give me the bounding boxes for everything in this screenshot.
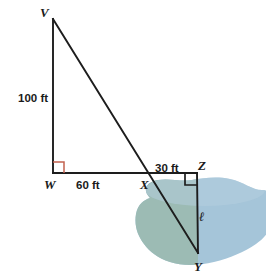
- vertex-label-X: X: [139, 177, 149, 192]
- measurement-label-60-ft: 60 ft: [76, 179, 100, 191]
- measurement-label-100-ft: 100 ft: [18, 92, 48, 104]
- vertex-label-V: V: [40, 5, 50, 20]
- segment-VY: [53, 19, 198, 253]
- segment-ZY: [197, 173, 198, 253]
- right-angle-W: [53, 162, 64, 173]
- vertex-label-Y: Y: [194, 259, 203, 274]
- figure-lines: [53, 19, 198, 253]
- diagram-canvas: V W X Z Y 100 ft 60 ft 30 ft ℓ: [0, 0, 266, 279]
- measurement-label-30-ft: 30 ft: [155, 162, 179, 174]
- measurement-label-ell: ℓ: [199, 209, 205, 224]
- vertex-label-W: W: [44, 177, 57, 192]
- vertex-label-Z: Z: [197, 158, 206, 173]
- geometry-figure: V W X Z Y 100 ft 60 ft 30 ft ℓ: [0, 0, 266, 279]
- lake-highlight: [145, 174, 265, 206]
